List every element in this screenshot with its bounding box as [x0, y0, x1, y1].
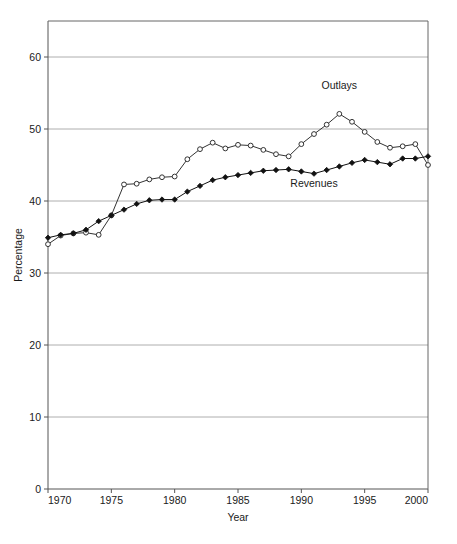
x-axis [48, 489, 428, 493]
data-point [198, 147, 203, 152]
data-point [274, 152, 279, 157]
data-point [388, 145, 393, 150]
data-point [147, 177, 152, 182]
data-point [185, 157, 190, 162]
x-tick-label: 1975 [100, 494, 124, 506]
y-tick-label: 20 [29, 339, 41, 351]
data-point [375, 140, 380, 145]
chart-container: 0102030405060 19701975198019851990199520… [0, 0, 457, 544]
data-point [172, 174, 177, 179]
x-axis-title: Year [227, 511, 249, 523]
series-label-revenues: Revenues [290, 177, 337, 189]
x-tick-labels: 1970197519801985199019952000 [48, 494, 428, 506]
data-point [223, 146, 228, 151]
y-tick-label: 60 [29, 51, 41, 63]
x-tick-label: 1985 [226, 494, 250, 506]
data-point [210, 140, 215, 145]
y-tick-label: 10 [29, 411, 41, 423]
line-chart: 0102030405060 19701975198019851990199520… [0, 0, 457, 544]
plot-background [48, 21, 428, 489]
data-point [261, 147, 266, 152]
data-point [46, 242, 51, 247]
x-tick-label: 1990 [290, 494, 314, 506]
y-tick-label: 50 [29, 123, 41, 135]
data-point [337, 111, 342, 116]
x-tick-label: 1980 [163, 494, 187, 506]
x-tick-label: 1970 [48, 494, 72, 506]
y-tick-labels: 0102030405060 [29, 51, 41, 495]
data-point [236, 142, 241, 147]
data-point [350, 119, 355, 124]
data-point [324, 122, 329, 127]
y-tick-label: 40 [29, 195, 41, 207]
data-point [160, 175, 165, 180]
data-point [248, 143, 253, 148]
y-axis-title: Percentage [12, 228, 24, 282]
data-point [400, 144, 405, 149]
data-point [122, 182, 127, 187]
x-tick-label: 2000 [405, 494, 429, 506]
data-point [96, 232, 101, 237]
data-point [134, 181, 139, 186]
data-point [286, 154, 291, 159]
y-tick-label: 0 [35, 483, 41, 495]
data-point [312, 132, 317, 137]
data-point [426, 163, 431, 168]
data-point [299, 142, 304, 147]
y-axis [44, 21, 48, 489]
data-point [413, 142, 418, 147]
y-tick-label: 30 [29, 267, 41, 279]
data-point [362, 129, 367, 134]
series-label-outlays: Outlays [322, 79, 358, 91]
x-tick-label: 1995 [353, 494, 377, 506]
